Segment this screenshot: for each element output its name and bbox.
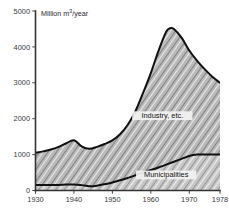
annotation-label: Municipalities <box>144 170 189 179</box>
x-tick-label: 1970 <box>181 195 197 204</box>
x-tick-label: 1978 <box>212 195 228 204</box>
y-axis-title: Million m3/year <box>41 8 89 18</box>
y-axis-title-text: Million m3/year <box>41 8 89 18</box>
y-tick-label: 0 <box>26 186 30 195</box>
chart-container: 010002000300040005000 193019401950196019… <box>0 0 229 216</box>
y-tick-label: 4000 <box>14 43 30 52</box>
x-tick-label: 1930 <box>27 195 43 204</box>
y-tick-label: 5000 <box>14 7 30 16</box>
x-tick-label: 1960 <box>143 195 159 204</box>
y-axis-title-main: Million m <box>41 9 69 18</box>
y-tick-label: 2000 <box>14 114 30 123</box>
x-tick-label: 1940 <box>66 195 82 204</box>
x-tick-label: 1950 <box>104 195 120 204</box>
series-annotation: Industry, etc. <box>132 111 192 120</box>
y-axis-title-tail: /year <box>72 9 89 18</box>
water-use-area-chart: 010002000300040005000 193019401950196019… <box>0 0 229 216</box>
series-annotation: Municipalities <box>136 170 196 179</box>
y-tick-label: 1000 <box>14 150 30 159</box>
y-tick-label: 3000 <box>14 78 30 87</box>
annotation-label: Industry, etc. <box>141 111 183 120</box>
